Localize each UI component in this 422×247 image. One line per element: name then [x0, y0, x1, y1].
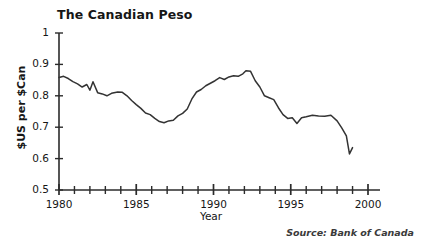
axes-group	[59, 33, 380, 190]
plot-area	[0, 0, 422, 247]
data-series-line	[59, 71, 353, 154]
x-tick-marks	[59, 184, 368, 195]
chart-figure: The Canadian Peso $US per $Can Year Sour…	[0, 0, 422, 247]
